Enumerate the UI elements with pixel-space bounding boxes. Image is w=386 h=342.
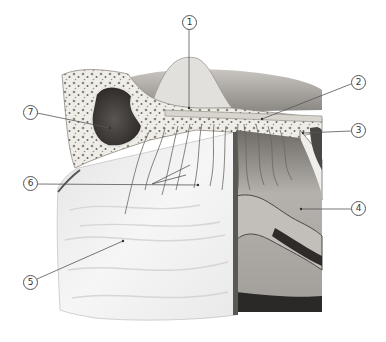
anatomy-illustration [0,0,386,342]
callout-1: 1 [182,15,197,30]
callout-6: 6 [23,176,38,191]
callout-3: 3 [351,123,366,138]
callout-2: 2 [351,75,366,90]
callout-4: 4 [351,201,366,216]
anatomy-figure: 1 2 3 4 5 6 7 [0,0,386,342]
callout-5: 5 [23,275,38,290]
septum-edge [233,132,238,315]
callout-7: 7 [23,105,38,120]
